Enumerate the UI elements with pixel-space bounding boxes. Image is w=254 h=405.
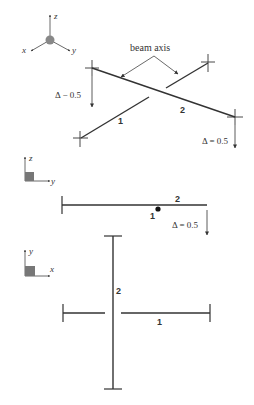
side-y-label: y (50, 176, 55, 186)
side-beam-2-label: 2 (175, 194, 180, 204)
side-origin-box-icon (25, 172, 34, 181)
beam-crossing-diagram: z x y beam axis 1 2 Δ − 0.5 Δ = 0.5 z y … (0, 0, 254, 405)
top-origin-box-icon (25, 266, 35, 276)
side-beam-1-label: 1 (150, 211, 155, 221)
x-axis-label: x (21, 45, 26, 55)
iso-support-crosses (73, 54, 243, 147)
iso-beam-1-label: 1 (118, 116, 123, 126)
iso-beam-2-label: 2 (180, 105, 185, 115)
top-y-label: y (28, 246, 33, 256)
iso-axes (31, 15, 70, 51)
iso-delta-left-label: Δ − 0.5 (55, 90, 82, 100)
side-delta-label: Δ = 0.5 (172, 220, 199, 230)
top-beam-2 (104, 236, 122, 389)
beam-axis-annotation: beam axis (130, 42, 170, 53)
side-beam-1-section (155, 206, 160, 211)
y-axis-label: y (71, 45, 76, 55)
top-x-label: x (49, 264, 54, 274)
iso-beam-2 (92, 68, 235, 117)
iso-origin-cube-icon (46, 36, 55, 45)
side-z-label: z (28, 153, 33, 163)
top-beam-2-label: 2 (116, 286, 121, 296)
top-beam-1 (63, 304, 210, 322)
iso-delta-right-label: Δ = 0.5 (202, 136, 229, 146)
top-beam-1-label: 1 (157, 317, 162, 327)
z-axis-label: z (53, 11, 58, 21)
beam-axis-pointers (121, 56, 178, 77)
